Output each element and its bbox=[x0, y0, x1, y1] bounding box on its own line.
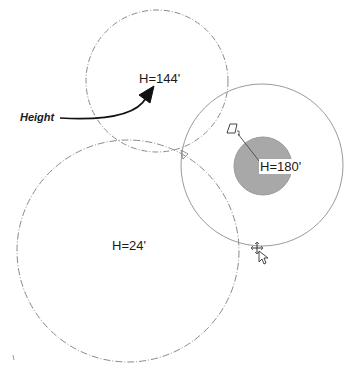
callout-arrowhead-icon bbox=[139, 86, 154, 103]
tick-mark bbox=[13, 355, 14, 360]
circle-top-label: H=144' bbox=[139, 71, 180, 86]
circle-selected-label: H=180' bbox=[259, 159, 302, 174]
pointer-cursor-icon bbox=[259, 251, 268, 264]
diagram-canvas: Height H=144' H=24' H=180' bbox=[0, 0, 346, 369]
circle-large-label: H=24' bbox=[112, 238, 146, 253]
callout-label-height: Height bbox=[20, 110, 54, 125]
grip-marker-icon[interactable] bbox=[227, 124, 240, 135]
diagram-svg bbox=[0, 0, 346, 369]
callout-arrow-line bbox=[60, 98, 146, 119]
